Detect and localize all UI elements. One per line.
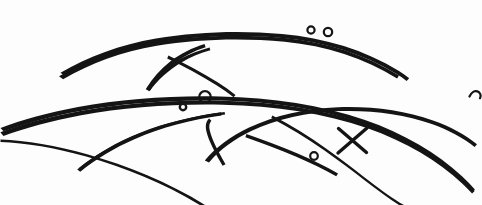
ink-drawing-svg: [0, 0, 482, 205]
drawing-canvas: A freehand ink drawing of several long o…: [0, 0, 482, 205]
